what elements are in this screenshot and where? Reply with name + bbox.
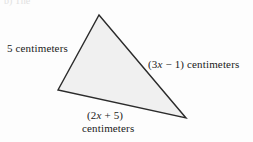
label-bottom-line1: (2x + 5) <box>82 109 134 122</box>
label-left-side-text: 5 centimeters <box>7 42 68 54</box>
label-bottom-side: (2x + 5) centimeters <box>82 109 134 135</box>
label-right-side: (3x − 1) centimeters <box>148 58 239 71</box>
geometry-figure: b) The 5 centimeters (3x − 1) centimeter… <box>0 0 253 142</box>
label-bottom-line2: centimeters <box>82 122 134 135</box>
label-right-side-suffix: − 1) centimeters <box>163 58 240 70</box>
label-bottom-suffix: + 5) <box>102 109 124 121</box>
label-left-side: 5 centimeters <box>7 42 68 55</box>
